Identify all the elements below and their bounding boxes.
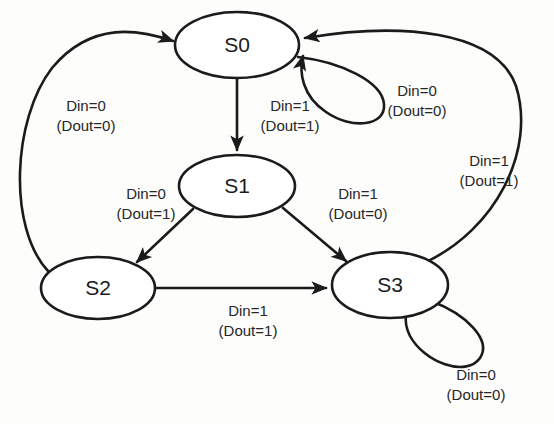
state-label-s0: S0	[224, 33, 250, 56]
edge-label-input: Din=0	[397, 82, 437, 99]
state-diagram-canvas: S0 S1 S2 S3 Din=0 (Dout=0) Din=1 (Dout=1…	[0, 0, 554, 424]
edge-label-input: Din=1	[228, 302, 268, 319]
edge-label-input: Din=0	[456, 366, 496, 383]
state-node-s0[interactable]: S0	[175, 12, 299, 78]
edge-s2-to-s0	[20, 32, 173, 271]
edge-s0-self-loop	[298, 56, 384, 123]
edge-label-s0-to-s1: Din=1 (Dout=1)	[261, 97, 320, 134]
edge-label-output: (Dout=1)	[460, 172, 519, 189]
edge-label-output: (Dout=0)	[329, 205, 388, 222]
edge-label-s2-to-s0: Din=0 (Dout=0)	[57, 97, 116, 134]
edge-label-s2-to-s3: Din=1 (Dout=1)	[219, 302, 278, 339]
state-node-s2[interactable]: S2	[41, 257, 155, 319]
edge-label-output: (Dout=1)	[261, 117, 320, 134]
edge-label-output: (Dout=1)	[117, 205, 176, 222]
edge-label-input: Din=0	[66, 97, 106, 114]
state-machine-diagram: S0 S1 S2 S3 Din=0 (Dout=0) Din=1 (Dout=1…	[0, 0, 554, 424]
state-node-s3[interactable]: S3	[332, 252, 448, 318]
state-node-s1[interactable]: S1	[179, 155, 295, 217]
edge-label-output: (Dout=0)	[447, 386, 506, 403]
edge-label-s0-self-loop: Din=0 (Dout=0)	[388, 82, 447, 119]
state-label-s2: S2	[85, 276, 111, 299]
edge-label-s1-to-s2: Din=0 (Dout=1)	[117, 185, 176, 222]
edge-label-output: (Dout=1)	[219, 322, 278, 339]
edge-label-s3-self-loop: Din=0 (Dout=0)	[447, 366, 506, 403]
edge-label-input: Din=1	[338, 185, 378, 202]
edge-label-input: Din=1	[270, 97, 310, 114]
edge-label-input: Din=1	[469, 152, 509, 169]
edge-label-input: Din=0	[126, 185, 166, 202]
state-label-s1: S1	[224, 174, 250, 197]
edge-label-output: (Dout=0)	[388, 102, 447, 119]
state-label-s3: S3	[377, 273, 403, 296]
edge-label-s3-to-s0: Din=1 (Dout=1)	[460, 152, 519, 189]
edge-label-s1-to-s3: Din=1 (Dout=0)	[329, 185, 388, 222]
edge-label-output: (Dout=0)	[57, 117, 116, 134]
